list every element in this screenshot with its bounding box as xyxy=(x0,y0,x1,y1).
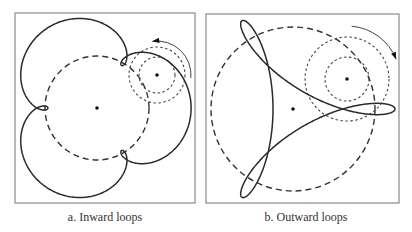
panel-a-center-dot xyxy=(95,106,99,110)
panel-a-rolling-center-dot xyxy=(155,73,159,77)
panel-a-rotation-arrow-icon xyxy=(152,41,191,78)
panel-b-rotation-arrow-icon xyxy=(352,26,397,59)
panel-a xyxy=(15,13,195,203)
panel-a-caption: a. Inward loops xyxy=(68,210,142,225)
panel-a-arrowhead-icon xyxy=(152,38,159,43)
panel-b-center-dot xyxy=(291,107,295,111)
panel-b-frame xyxy=(206,14,399,203)
loops-figure xyxy=(0,0,412,232)
panel-b xyxy=(206,14,399,203)
panel-a-inward-loop-curve xyxy=(21,18,191,197)
panel-b-arrowhead-icon xyxy=(391,52,396,59)
panel-a-frame xyxy=(15,13,195,203)
panel-b-rolling-center-dot xyxy=(345,77,349,81)
panel-b-caption: b. Outward loops xyxy=(265,210,348,225)
panel-b-outward-loop-curve xyxy=(241,20,395,197)
